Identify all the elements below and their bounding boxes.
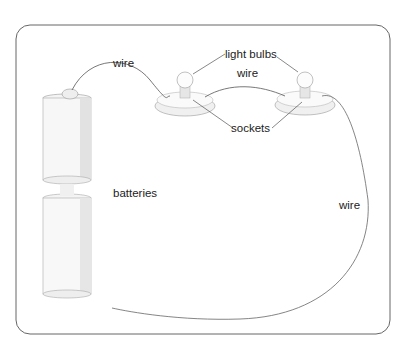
label-wire-top-left: wire	[113, 57, 134, 69]
label-sockets: sockets	[231, 122, 270, 134]
battery-top	[43, 89, 91, 184]
label-light-bulbs: light bulbs	[225, 48, 277, 60]
battery-bottom	[43, 184, 91, 298]
label-wire-right: wire	[339, 199, 360, 211]
label-batteries: batteries	[113, 187, 157, 199]
label-wire-middle: wire	[237, 67, 258, 79]
circuit-diagram	[0, 0, 410, 357]
